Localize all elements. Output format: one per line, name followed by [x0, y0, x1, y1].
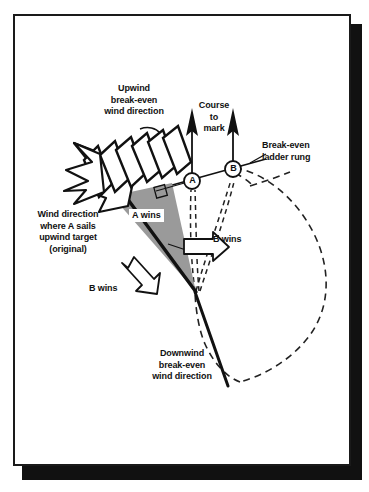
boat-label-a: A [186, 175, 199, 187]
boat-markers [0, 0, 369, 492]
figure-root: Upwind break-even wind direction Course … [0, 0, 369, 492]
boat-label-b: B [227, 163, 240, 175]
